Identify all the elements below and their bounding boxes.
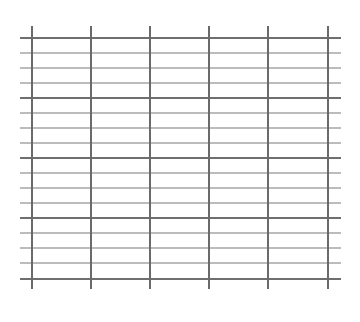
grid-lines [0, 0, 360, 322]
grid-paper [0, 0, 360, 322]
